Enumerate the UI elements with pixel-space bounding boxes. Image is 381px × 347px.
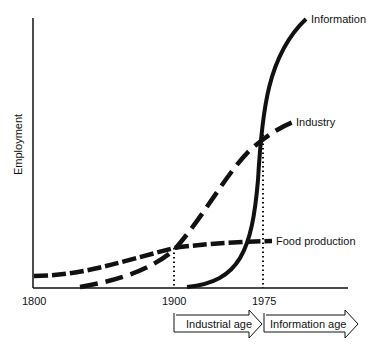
food-production-label: Food production: [276, 235, 356, 247]
industry-label: Industry: [296, 116, 336, 128]
information-age-arrow: Information age: [264, 310, 358, 338]
tick-1900: 1900: [162, 295, 186, 307]
tick-1800: 1800: [22, 295, 46, 307]
industrial-age-arrow: Industrial age: [174, 310, 262, 338]
food-production-line: [34, 241, 272, 276]
tick-1975: 1975: [252, 295, 276, 307]
y-axis-label: Employment: [12, 114, 24, 175]
employment-diagram: Employment 1800 1900 1975 Information In…: [0, 0, 381, 347]
information-age-label: Information age: [270, 318, 346, 330]
industrial-age-label: Industrial age: [186, 318, 252, 330]
information-label: Information: [311, 13, 366, 25]
